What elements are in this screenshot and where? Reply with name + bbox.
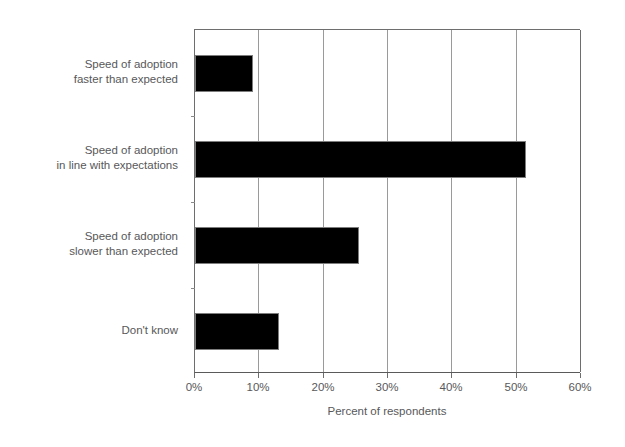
x-tick-label: 60% xyxy=(550,381,610,393)
category-axis-labels: Speed of adoption faster than expectedSp… xyxy=(0,29,186,373)
bar xyxy=(195,313,279,350)
gridline-30% xyxy=(387,30,388,372)
category-tick xyxy=(191,116,195,117)
x-axis-tick-labels: 0%10%20%30%40%50%60% xyxy=(0,381,625,399)
gridline-40% xyxy=(451,30,452,372)
x-tick-label: 20% xyxy=(293,381,353,393)
x-tick xyxy=(516,373,517,378)
category-label: Don't know xyxy=(0,323,178,338)
x-tick-label: 10% xyxy=(228,381,288,393)
x-tick xyxy=(323,373,324,378)
x-tick-label: 50% xyxy=(486,381,546,393)
gridline-50% xyxy=(516,30,517,372)
x-tick-label: 40% xyxy=(421,381,481,393)
x-axis-title: Percent of respondents xyxy=(194,405,580,417)
x-tick-label: 30% xyxy=(357,381,417,393)
category-label: Speed of adoption slower than expected xyxy=(0,229,178,259)
gridline-60% xyxy=(580,30,581,372)
x-tick xyxy=(387,373,388,378)
x-tick xyxy=(258,373,259,378)
category-label: Speed of adoption faster than expected xyxy=(0,57,178,87)
bar xyxy=(195,55,253,92)
gridline-20% xyxy=(323,30,324,372)
plot-area xyxy=(194,29,580,373)
category-label: Speed of adoption in line with expectati… xyxy=(0,143,178,173)
x-tick xyxy=(580,373,581,378)
category-tick xyxy=(191,202,195,203)
bar xyxy=(195,141,526,178)
x-tick-label: 0% xyxy=(164,381,224,393)
x-tick xyxy=(194,373,195,378)
x-tick xyxy=(451,373,452,378)
x-axis-ticks xyxy=(194,373,581,379)
category-tick xyxy=(191,288,195,289)
bar xyxy=(195,227,359,264)
bar-chart: Speed of adoption faster than expectedSp… xyxy=(0,0,625,447)
